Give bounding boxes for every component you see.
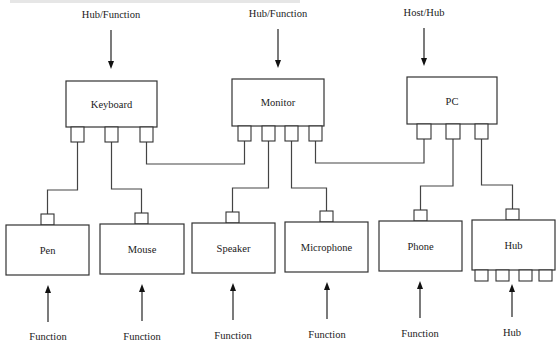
speaker-role-label: Function <box>214 330 252 341</box>
arrow-up-icon <box>509 284 515 292</box>
speaker-role-group: Function <box>214 283 252 341</box>
pc-role-label: Host/Hub <box>404 7 445 18</box>
wire-monitor-pc <box>316 139 425 163</box>
wire-monitor-speaker <box>233 141 269 212</box>
device-keyboard: Keyboard <box>66 81 157 142</box>
phone-port <box>414 210 427 221</box>
mouse-label: Mouse <box>128 244 157 255</box>
hub-downstream-port-2 <box>496 270 509 281</box>
device-mouse: Mouse <box>100 213 184 274</box>
usb-topology-diagram: Hub/Function Hub/Function Host/Hub Keybo… <box>0 0 557 342</box>
monitor-port-3 <box>285 126 298 141</box>
wire-keyboard-pen <box>48 142 78 214</box>
pc-port-2 <box>446 124 460 139</box>
wire-pc-phone <box>421 139 454 210</box>
phone-label: Phone <box>407 241 434 252</box>
speaker-label: Speaker <box>217 243 251 254</box>
hub-label: Hub <box>504 240 522 251</box>
phone-role-label: Function <box>401 328 439 339</box>
pc-label: PC <box>446 96 459 107</box>
wire-pc-hub <box>482 139 513 209</box>
keyboard-port-3 <box>140 127 153 142</box>
monitor-role-label: Hub/Function <box>249 8 308 19</box>
pc-port-3 <box>475 124 488 139</box>
wires <box>48 139 513 214</box>
hub-downstream-port-3 <box>519 270 532 281</box>
wire-keyboard-mouse <box>112 142 142 213</box>
microphone-port <box>320 211 333 222</box>
pen-role-label: Function <box>29 331 67 342</box>
wire-monitor-microphone <box>292 141 327 211</box>
pen-port <box>41 214 54 225</box>
wire-keyboard-monitor <box>147 141 245 164</box>
arrow-down-icon <box>275 60 281 68</box>
mouse-port <box>135 213 148 224</box>
keyboard-label: Keyboard <box>91 99 133 110</box>
device-microphone: Microphone <box>285 211 368 272</box>
pc-port-1 <box>417 124 431 139</box>
keyboard-role-label: Hub/Function <box>82 9 141 20</box>
keyboard-port-2 <box>105 127 118 142</box>
phone-role-group: Function <box>401 281 439 339</box>
device-pen: Pen <box>6 214 89 275</box>
device-phone: Phone <box>379 210 462 271</box>
speaker-port <box>226 212 239 223</box>
microphone-label: Microphone <box>301 242 353 253</box>
pen-role-group: Function <box>29 285 67 342</box>
monitor-label: Monitor <box>261 97 296 108</box>
cropped-caption-line <box>10 0 300 3</box>
mouse-role-group: Function <box>123 284 161 342</box>
arrow-down-icon <box>108 61 114 69</box>
hub-role-group: Hub <box>503 284 521 338</box>
arrow-up-icon <box>230 283 236 291</box>
arrow-up-icon <box>417 281 423 289</box>
hub-downstream-port-4 <box>539 270 552 281</box>
mouse-role-label: Function <box>123 331 161 342</box>
device-speaker: Speaker <box>192 212 275 273</box>
hub-downstream-port-1 <box>475 270 488 281</box>
hub-upstream-port <box>506 209 519 220</box>
microphone-role-group: Function <box>308 282 346 340</box>
hub-role-label: Hub <box>503 327 521 338</box>
arrow-down-icon <box>421 58 427 66</box>
device-pc: PC <box>407 77 497 139</box>
monitor-port-1 <box>238 126 251 141</box>
keyboard-port-1 <box>71 127 84 142</box>
arrow-up-icon <box>45 285 51 293</box>
keyboard-role-group: Hub/Function <box>82 9 141 69</box>
monitor-port-4 <box>309 126 322 141</box>
device-monitor: Monitor <box>232 79 324 141</box>
pen-label: Pen <box>40 245 57 256</box>
device-hub: Hub <box>472 209 555 281</box>
pc-role-group: Host/Hub <box>404 7 445 66</box>
arrow-up-icon <box>139 284 145 292</box>
microphone-role-label: Function <box>308 329 346 340</box>
arrow-up-icon <box>324 282 330 290</box>
monitor-port-2 <box>262 126 275 141</box>
monitor-role-group: Hub/Function <box>249 8 308 68</box>
